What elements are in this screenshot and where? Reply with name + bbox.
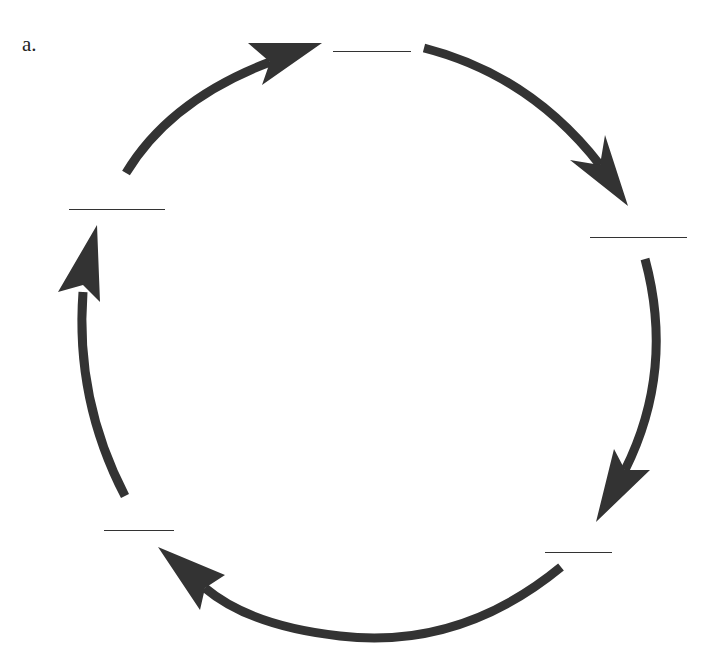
arrowhead-left xyxy=(58,225,100,302)
arrowhead-bottom-right xyxy=(596,449,650,522)
arrow-left-to-top xyxy=(126,62,270,173)
arrow-bottom-right-to-bottom-left xyxy=(205,567,561,638)
cycle-arrows xyxy=(0,0,711,671)
arrow-top-to-right xyxy=(424,48,600,165)
arrow-bottom-left-to-left xyxy=(82,292,125,496)
arrow-right-to-bottom-right xyxy=(625,259,656,470)
